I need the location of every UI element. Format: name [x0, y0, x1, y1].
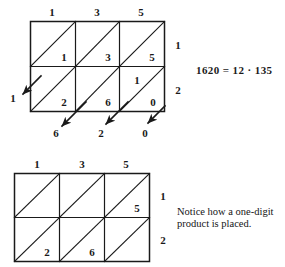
top-grid-cell-0-0-lower: 1 [61, 52, 67, 63]
bottom-grid-internal-lines [15, 174, 150, 262]
top-grid-sum-arrows [23, 76, 165, 126]
product-equation: 1620 = 12 · 135 [196, 64, 272, 76]
top-grid-cell-1-0-lower: 2 [61, 97, 67, 108]
bottom-grid-row-header-0: 1 [160, 191, 166, 202]
top-grid-internal-lines [31, 22, 165, 112]
bottom-grid-column-header-0: 1 [34, 159, 40, 170]
top-grid-cell-1-2-lower: 0 [150, 97, 156, 108]
result-digit-hundreds: 6 [53, 128, 59, 139]
bottom-grid-cell-1-1-lower: 6 [89, 247, 95, 258]
result-digit-ones: 0 [142, 128, 148, 139]
top-grid-cell-0-2-lower: 5 [149, 52, 155, 63]
bottom-grid-cell-1-0-lower: 2 [44, 247, 50, 258]
top-grid-cell-1-2-upper: 1 [134, 75, 140, 86]
figure-root: 1 3 5 1 2 1 3 5 2 6 1 0 1 6 2 0 1620 = 1… [0, 0, 285, 267]
result-digit-thousands: 1 [10, 93, 16, 104]
top-grid-column-header-2: 5 [138, 7, 144, 18]
top-grid-row-header-1: 2 [175, 85, 181, 96]
result-digit-tens: 2 [98, 128, 104, 139]
bottom-grid-cell-0-2-lower: 5 [134, 203, 140, 214]
figure-caption: Notice how a one-digit product is placed… [177, 206, 285, 231]
top-grid-cell-1-1-lower: 6 [105, 97, 111, 108]
top-grid-cell-0-1-lower: 3 [105, 52, 111, 63]
bottom-grid-column-header-2: 5 [123, 159, 129, 170]
top-grid-column-header-1: 3 [94, 7, 100, 18]
bottom-grid-column-header-1: 3 [79, 159, 85, 170]
top-grid-row-header-0: 1 [175, 40, 181, 51]
bottom-grid-row-header-1: 2 [160, 235, 166, 246]
top-grid-column-header-0: 1 [49, 7, 55, 18]
